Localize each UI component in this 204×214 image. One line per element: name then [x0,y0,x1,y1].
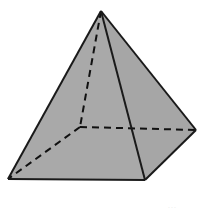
corner-artifact: ... [168,202,177,210]
pyramid-figure: ... [0,0,204,214]
pyramid-diagram [0,0,204,214]
edge-base-front [8,179,145,180]
